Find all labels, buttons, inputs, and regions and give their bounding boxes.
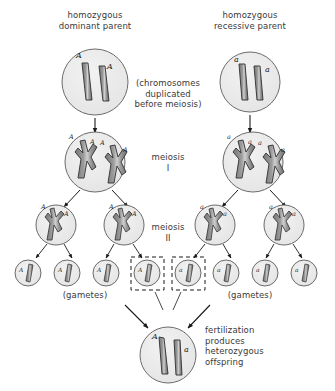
allele-label: a bbox=[265, 66, 270, 74]
arrow-down-left bbox=[64, 190, 80, 207]
meiosis-one-label: meiosis I bbox=[140, 152, 196, 173]
allele-label: a bbox=[269, 203, 273, 211]
allele-label: a bbox=[184, 346, 189, 354]
arrow bbox=[293, 244, 302, 258]
right-parent-title: homozygous recessive parent bbox=[190, 10, 310, 31]
allele-label: A bbox=[64, 210, 69, 218]
right-gamete-1-selected[interactable] bbox=[172, 257, 205, 310]
allele-label: a bbox=[223, 210, 227, 218]
allele-label: A bbox=[97, 266, 101, 274]
allele-label: a bbox=[258, 139, 262, 147]
offspring-cell bbox=[140, 327, 196, 383]
meiosis-fertilization-diagram: homozygous dominant parent homozygous re… bbox=[0, 0, 335, 391]
allele-label: a bbox=[292, 210, 296, 218]
arrow bbox=[223, 244, 231, 258]
chromosome bbox=[174, 340, 182, 375]
arrow bbox=[64, 244, 72, 258]
right-meiosis1-cell-2 bbox=[264, 205, 304, 258]
allele-label: A bbox=[138, 266, 142, 274]
allele-label: a bbox=[248, 138, 252, 146]
allele-label: A bbox=[76, 52, 82, 60]
allele-label: A bbox=[41, 203, 46, 211]
arrow bbox=[36, 244, 47, 258]
left-parent-title: homozygous dominant parent bbox=[35, 10, 155, 31]
allele-label: A bbox=[107, 63, 113, 71]
arrow bbox=[194, 244, 205, 258]
allele-label: A bbox=[100, 139, 105, 147]
left-gametes-label: (gametes) bbox=[35, 290, 135, 301]
allele-label: a bbox=[256, 266, 260, 274]
allele-label: A bbox=[132, 210, 137, 218]
allele-label: a bbox=[200, 203, 204, 211]
allele-label: A bbox=[152, 333, 158, 341]
meiosis-two-label: meiosis II bbox=[140, 222, 196, 243]
allele-label: A bbox=[19, 266, 23, 274]
left-meiosis1-cell-2 bbox=[104, 205, 144, 258]
arrow bbox=[266, 244, 274, 258]
left-meiosis1-cell-1 bbox=[36, 205, 76, 258]
allele-label: A bbox=[90, 138, 95, 146]
allele-label: a bbox=[179, 266, 183, 274]
right-parent-cell bbox=[220, 52, 280, 133]
allele-label: a bbox=[295, 266, 299, 274]
allele-label: A bbox=[58, 266, 62, 274]
duplication-note: (chromosomes duplicated before meiosis) bbox=[126, 78, 210, 110]
arrow-down-left bbox=[222, 190, 238, 207]
arrow bbox=[133, 244, 142, 258]
right-duplicated-cell bbox=[222, 132, 286, 207]
fertilization-note: fertilization produces heterozygous offs… bbox=[205, 325, 330, 367]
allele-label: a bbox=[227, 133, 231, 141]
allele-label: a bbox=[281, 146, 285, 154]
fusion-line bbox=[155, 292, 163, 310]
fusion-line bbox=[173, 292, 181, 310]
allele-label: A bbox=[109, 203, 114, 211]
arrow bbox=[106, 244, 114, 258]
allele-label: A bbox=[69, 133, 74, 141]
right-gametes-label: (gametes) bbox=[200, 290, 300, 301]
allele-label: A bbox=[123, 146, 128, 154]
left-gamete-4-selected[interactable] bbox=[131, 257, 164, 310]
arrow-down-right bbox=[112, 190, 128, 207]
left-parent-cell bbox=[62, 49, 128, 133]
allele-label: a bbox=[217, 266, 221, 274]
allele-label: a bbox=[234, 56, 239, 64]
fertilization-arrow-left bbox=[125, 305, 148, 328]
right-meiosis1-cell-1 bbox=[194, 205, 235, 258]
left-duplicated-cell bbox=[64, 132, 128, 207]
